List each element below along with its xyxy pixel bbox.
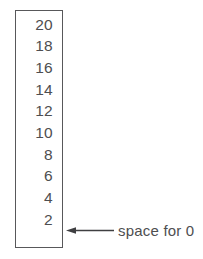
list-item: 10: [16, 122, 62, 144]
tick-label: 16: [35, 60, 53, 76]
tick-label: 18: [35, 38, 53, 54]
list-item: 8: [16, 144, 62, 166]
list-item: 12: [16, 100, 62, 122]
annotation-caption: space for 0: [118, 223, 194, 238]
tick-label: 4: [44, 190, 53, 206]
tick-label: 14: [35, 82, 53, 98]
number-column-list: 20 18 16 14 12 10 8 6 4 2: [16, 11, 62, 247]
list-item: 16: [16, 57, 62, 79]
list-item: 4: [16, 187, 62, 209]
tick-label: 8: [44, 147, 53, 163]
empty-slot: [16, 231, 62, 253]
tick-label: 10: [35, 125, 53, 141]
list-item: 6: [16, 165, 62, 187]
list-item: 2: [16, 209, 62, 231]
list-item: 20: [16, 14, 62, 36]
tick-label: 6: [44, 168, 53, 184]
list-item: 18: [16, 35, 62, 57]
arrow-left-icon: [66, 225, 114, 236]
tick-label: 2: [44, 212, 53, 228]
figure-canvas: 20 18 16 14 12 10 8 6 4 2 space for 0: [0, 0, 203, 259]
annotation: space for 0: [66, 219, 194, 241]
tick-label: 12: [35, 103, 53, 119]
number-column: 20 18 16 14 12 10 8 6 4 2: [15, 10, 63, 248]
tick-label: 20: [35, 17, 53, 33]
list-item: 14: [16, 79, 62, 101]
